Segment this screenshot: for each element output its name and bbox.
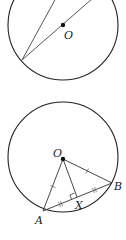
point-label-B: B [113,180,122,193]
center-point [61,23,65,27]
center-label: O [64,29,73,42]
top-figure: O [8,0,118,80]
bottom-figure: O A B X [8,102,122,227]
diameter-line [22,0,93,60]
chord-line [22,0,56,60]
point-label-A: A [34,214,43,227]
top-circle [8,0,118,80]
diagram-canvas: O O A B X [0,0,126,240]
point-label-X: X [74,199,84,212]
center-label: O [53,147,62,160]
radius-OA [43,159,63,211]
